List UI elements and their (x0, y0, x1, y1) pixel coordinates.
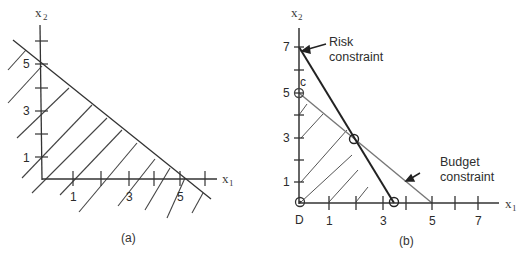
panel-a-x-tick-3: 3 (126, 190, 133, 204)
panel-a-y-tick-1: 1 (23, 151, 30, 165)
panel-a-x-tick-1: 1 (70, 190, 77, 204)
panel-a-x-axis-subscript: 1 (229, 178, 234, 188)
point-d-label: D (295, 213, 304, 227)
panel-a-y-axis-label: x (35, 5, 42, 20)
panel-b-x-tick-1: 1 (326, 214, 333, 228)
panel-b-caption: (b) (399, 234, 414, 248)
panel-a-y-tick-5: 5 (23, 57, 30, 71)
panel-a-caption: (a) (121, 231, 136, 245)
budget-constraint-line (299, 93, 432, 203)
risk-annotation-arrow (302, 44, 326, 53)
panel-a-x-axis-label: x (222, 171, 229, 186)
panel-b-x-tick-7: 7 (475, 214, 482, 228)
point-d-dot (299, 201, 302, 204)
panel-b-y-tick-5: 5 (283, 86, 290, 100)
panel-b-hatching (299, 104, 368, 202)
panel-b-y-tick-3: 3 (283, 131, 290, 145)
risk-label-line1: Risk (329, 35, 354, 49)
panel-a (8, 25, 217, 218)
point-c-label: c (300, 75, 306, 89)
panel-b-y-tick-1: 1 (283, 175, 290, 189)
budget-annotation-arrow (406, 173, 420, 181)
panel-b-x-tick-5: 5 (429, 214, 436, 228)
risk-label-line2: constraint (329, 50, 384, 64)
budget-label-line1: Budget (440, 155, 480, 169)
panel-b-y-tick-7: 7 (283, 40, 290, 54)
panel-a-x-tick-5: 5 (177, 190, 184, 204)
figure: x 2 x 1 5 3 1 1 3 5 (a) (0, 0, 525, 257)
panel-b-y-axis-subscript: 2 (298, 12, 303, 22)
panel-b-x-axis-label: x (505, 196, 512, 211)
panel-b-y-axis-label: x (291, 5, 298, 20)
panel-a-y-axis-subscript: 2 (43, 12, 48, 22)
panel-a-y-tick-3: 3 (23, 104, 30, 118)
budget-label-line2: constraint (440, 170, 495, 184)
panel-b-x-tick-3: 3 (380, 214, 387, 228)
panel-b-x-axis-subscript: 1 (512, 203, 517, 213)
